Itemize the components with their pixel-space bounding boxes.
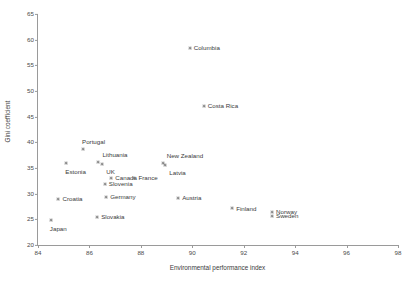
data-point-label: New Zealand xyxy=(167,153,203,159)
x-axis-tick: 88 xyxy=(126,245,156,256)
data-point-marker-icon xyxy=(56,197,60,201)
data-point-marker-icon xyxy=(96,160,100,164)
x-axis-tick: 98 xyxy=(383,245,409,256)
data-point-marker-icon xyxy=(161,161,165,165)
data-point-label: Finland xyxy=(236,206,256,212)
data-point-label: Estonia xyxy=(65,169,86,175)
data-point-label: Portugal xyxy=(82,139,105,145)
data-point-label: Sweden xyxy=(276,213,298,219)
data-point-marker-icon xyxy=(95,215,99,219)
x-axis-tick: 90 xyxy=(177,245,207,256)
plot-area: 202530354045505560658486889092949698Colu… xyxy=(37,14,398,246)
data-point-label: Lithuania xyxy=(102,152,127,158)
x-axis-tick: 84 xyxy=(23,245,53,256)
data-point-label: France xyxy=(138,175,157,181)
y-axis-tick: 25 xyxy=(4,216,38,222)
data-point-label: UK xyxy=(106,169,115,175)
x-axis-title: Environmental performance index xyxy=(37,264,398,271)
data-point-marker-icon xyxy=(188,46,192,50)
data-point-marker-icon xyxy=(100,162,104,166)
x-axis-tick: 92 xyxy=(229,245,259,256)
data-point-marker-icon xyxy=(104,195,108,199)
data-point-marker-icon xyxy=(49,218,53,222)
data-point-marker-icon xyxy=(81,147,85,151)
data-point-marker-icon xyxy=(176,196,180,200)
data-point-marker-icon xyxy=(163,163,167,167)
x-axis-tick: 94 xyxy=(280,245,310,256)
data-point-label: Latvia xyxy=(169,170,186,176)
data-point-marker-icon xyxy=(103,182,107,186)
data-point-label: Japan xyxy=(50,226,67,232)
data-point-marker-icon xyxy=(202,104,206,108)
x-axis-tick: 86 xyxy=(74,245,104,256)
data-point-label: Slovenia xyxy=(109,181,133,187)
data-point-marker-icon xyxy=(64,161,68,165)
data-point-label: Costa Rica xyxy=(208,103,238,109)
y-axis-tick: 55 xyxy=(4,62,38,68)
data-point-label: Slovakia xyxy=(101,214,124,220)
y-axis-tick: 30 xyxy=(4,191,38,197)
data-point-label: Croatia xyxy=(63,196,83,202)
data-point-label: Germany xyxy=(110,194,135,200)
data-point-marker-icon xyxy=(270,214,274,218)
x-axis-tick: 96 xyxy=(332,245,362,256)
data-point-marker-icon xyxy=(270,210,274,214)
scatter-chart: 202530354045505560658486889092949698Colu… xyxy=(0,0,409,283)
data-point-marker-icon xyxy=(230,206,234,210)
y-axis-tick: 60 xyxy=(4,37,38,43)
data-point-label: Austria xyxy=(182,195,201,201)
y-axis-tick: 35 xyxy=(4,165,38,171)
y-axis-title: Gini coefficient xyxy=(4,82,11,162)
data-point-label: Columbia xyxy=(194,45,220,51)
y-axis-tick: 65 xyxy=(4,11,38,17)
